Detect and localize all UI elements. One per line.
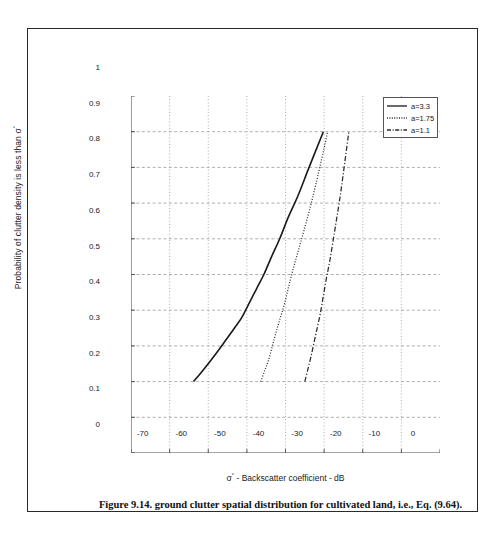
y-tick-label: 0.6 (70, 206, 100, 215)
legend-item-2: a=1.1 (386, 124, 435, 136)
x-tick-label: 0 (398, 429, 428, 438)
legend-label-0: a=3.3 (411, 102, 430, 111)
grid-lines (131, 96, 440, 453)
y-axis-title-text: Probability of clutter density is less t… (13, 128, 23, 289)
y-tick-label: 0.9 (70, 99, 100, 108)
y-tick-label: 0 (70, 420, 100, 429)
x-tick-label: -50 (205, 429, 235, 438)
figure-page: Probability of clutter density is less t… (0, 0, 501, 534)
plot-area (131, 96, 440, 453)
x-axis-title-text: - Backscatter coefficient - dB (234, 473, 344, 483)
x-tick-label: -60 (166, 429, 196, 438)
chart-svg (131, 96, 440, 453)
y-tick-label: 1 (70, 63, 100, 72)
y-tick-label: 0.3 (70, 313, 100, 322)
legend-sample-dashdot-icon (386, 125, 408, 135)
chart-legend: a=3.3 a=1.75 a=1.1 (383, 97, 438, 138)
x-tick-label: -10 (359, 429, 389, 438)
legend-sample-solid-icon (386, 101, 408, 111)
legend-sample-dotted-icon (386, 113, 408, 123)
legend-item-0: a=3.3 (386, 100, 435, 112)
x-axis-title: σ° - Backscatter coefficient - dB (131, 472, 440, 483)
legend-item-1: a=1.75 (386, 112, 435, 124)
curve-a-3-3 (194, 132, 324, 382)
axis-lines (131, 96, 440, 453)
y-axis-title: Probability of clutter density is less t… (12, 29, 26, 386)
figure-caption: Figure 9.14. ground clutter spatial dist… (68, 499, 493, 512)
y-axis-title-degree: ° (12, 126, 18, 128)
legend-label-2: a=1.1 (411, 126, 430, 135)
data-curves (194, 132, 349, 382)
y-tick-label: 0.1 (70, 384, 100, 393)
tick-marks (131, 96, 440, 453)
x-tick-label: -30 (282, 429, 312, 438)
y-tick-label: 0.4 (70, 277, 100, 286)
legend-label-1: a=1.75 (411, 114, 434, 123)
x-tick-label: -40 (244, 429, 274, 438)
y-tick-label: 0.7 (70, 170, 100, 179)
x-tick-label: -20 (321, 429, 351, 438)
y-tick-label: 0.5 (70, 242, 100, 251)
figure-border: Probability of clutter density is less t… (27, 28, 478, 512)
y-tick-label: 0.2 (70, 349, 100, 358)
y-tick-label: 0.8 (70, 134, 100, 143)
curve-a-1-1 (305, 132, 349, 382)
x-tick-label: -70 (128, 429, 158, 438)
